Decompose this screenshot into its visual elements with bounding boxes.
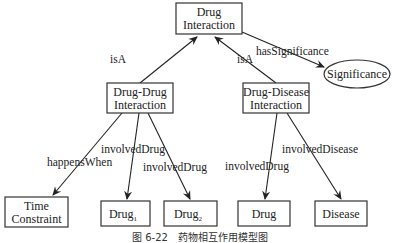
svg-text:Drug-Disease: Drug-Disease bbox=[243, 85, 309, 99]
edge-involved-drug-1 bbox=[127, 113, 139, 199]
edge-label-involved-drug-1: involvedDrug bbox=[101, 143, 165, 156]
edge-label-involved-disease: involvedDisease bbox=[282, 143, 358, 155]
svg-text:Time: Time bbox=[24, 199, 49, 213]
figure-caption: 图 6-22 药物相互作用模型图 bbox=[132, 231, 268, 243]
edge-involved-disease bbox=[287, 113, 341, 199]
svg-text:Drug: Drug bbox=[197, 5, 222, 19]
svg-text:Interaction: Interaction bbox=[183, 18, 235, 32]
edge-involved-drug-2 bbox=[148, 113, 190, 199]
edge-label-happens-when: happensWhen bbox=[47, 156, 112, 169]
svg-text:Constraint: Constraint bbox=[12, 212, 63, 226]
node-time-constraint: Time Constraint bbox=[5, 197, 68, 227]
edge-isA-drug-drug bbox=[140, 37, 197, 83]
svg-text:Disease: Disease bbox=[322, 207, 359, 221]
svg-text:Drug1: Drug1 bbox=[109, 207, 138, 223]
svg-text:Interaction: Interaction bbox=[114, 98, 166, 112]
edge-label-involved-drug-3: involvedDrug bbox=[225, 160, 289, 173]
node-drug: Drug bbox=[238, 201, 290, 226]
drug-interaction-model-diagram: isA isA hasSignificance happensWhen invo… bbox=[0, 0, 399, 243]
edge-label-isA-left: isA bbox=[110, 53, 127, 65]
edge-label-isA-right: isA bbox=[237, 53, 254, 65]
svg-text:Significance: Significance bbox=[327, 67, 387, 81]
svg-text:Drug2: Drug2 bbox=[174, 207, 203, 223]
node-drug-disease-interaction: Drug-Disease Interaction bbox=[243, 83, 309, 113]
svg-text:Drug: Drug bbox=[252, 207, 277, 221]
edge-label-has-significance: hasSignificance bbox=[256, 45, 329, 58]
node-drug-interaction: Drug Interaction bbox=[176, 3, 242, 34]
node-drug-1: Drug1 bbox=[101, 201, 150, 226]
node-drug-2: Drug2 bbox=[164, 201, 217, 226]
node-drug-drug-interaction: Drug-Drug Interaction bbox=[107, 83, 173, 113]
edge-label-involved-drug-2: involvedDrug bbox=[143, 161, 207, 174]
node-disease: Disease bbox=[315, 201, 367, 226]
svg-text:Interaction: Interaction bbox=[250, 98, 302, 112]
svg-text:Drug-Drug: Drug-Drug bbox=[113, 85, 166, 99]
edge-involved-drug-3 bbox=[265, 113, 277, 199]
node-significance: Significance bbox=[324, 60, 390, 88]
